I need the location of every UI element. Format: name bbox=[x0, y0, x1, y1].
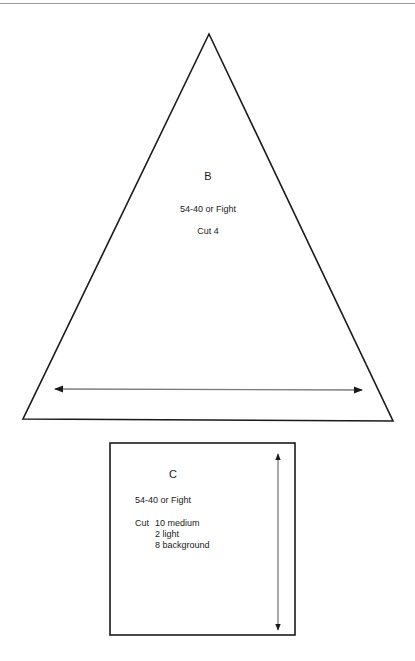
cut-item: 2 light bbox=[155, 529, 210, 540]
template-c-block-name: 54-40 or Fight bbox=[135, 495, 191, 506]
template-c-letter: C bbox=[169, 469, 177, 480]
template-b-cut-instruction: Cut 4 bbox=[197, 226, 219, 237]
template-b-letter: B bbox=[204, 171, 211, 182]
pattern-shapes bbox=[0, 0, 415, 661]
template-b-block-name: 54-40 or Fight bbox=[180, 204, 236, 215]
grainline-arrow-b bbox=[55, 389, 362, 390]
cut-list: 10 medium 2 light 8 background bbox=[155, 518, 210, 551]
cut-label: Cut bbox=[135, 518, 149, 551]
cut-item: 10 medium bbox=[155, 518, 210, 529]
cut-item: 8 background bbox=[155, 540, 210, 551]
template-c-cut-instructions: Cut 10 medium 2 light 8 background bbox=[135, 518, 210, 551]
